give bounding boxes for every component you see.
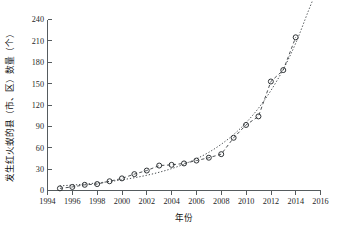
y-tick-label-120: 120 xyxy=(32,101,44,110)
x-axis-tick-labels: 1994 1996 1998 2000 2002 2004 2006 2008 … xyxy=(39,197,328,206)
data-point-marker xyxy=(82,182,87,187)
data-point-marker xyxy=(182,161,187,166)
y-tick-label-150: 150 xyxy=(32,80,44,89)
x-tick-label-2008: 2008 xyxy=(213,197,229,206)
x-tick-label-2006: 2006 xyxy=(188,197,204,206)
data-point-marker xyxy=(206,155,211,160)
data-point-marker xyxy=(293,35,298,40)
data-point-marker xyxy=(268,79,273,84)
data-point-marker xyxy=(244,122,249,127)
data-point-marker xyxy=(95,182,100,187)
y-tick-label-90: 90 xyxy=(36,122,44,131)
y-tick-label-180: 180 xyxy=(32,58,44,67)
data-point-marker xyxy=(169,162,174,167)
x-axis: 1994 1996 1998 2000 2002 2004 2006 2008 … xyxy=(39,191,328,224)
y-tick-label-30: 30 xyxy=(36,165,44,174)
x-tick-label-2004: 2004 xyxy=(164,197,180,206)
y-axis-ticks xyxy=(48,20,52,191)
data-point-marker xyxy=(194,158,199,163)
y-tick-label-210: 210 xyxy=(32,37,44,46)
data-point-marker xyxy=(219,152,224,157)
y-tick-label-0: 0 xyxy=(40,186,44,195)
x-tick-label-1994: 1994 xyxy=(39,197,55,206)
series-connector-line xyxy=(60,37,296,188)
data-point-marker xyxy=(57,186,62,191)
y-tick-label-60: 60 xyxy=(36,144,44,153)
chart-plot: 240 210 180 150 120 90 60 30 0 发生红火蚁的县（市… xyxy=(0,0,346,239)
x-tick-label-2014: 2014 xyxy=(288,197,304,206)
x-tick-label-2000: 2000 xyxy=(114,197,130,206)
data-point-marker xyxy=(132,172,137,177)
x-axis-title: 年份 xyxy=(175,212,193,223)
data-point-marker xyxy=(231,135,236,140)
y-axis: 240 210 180 150 120 90 60 30 0 发生红火蚁的县（市… xyxy=(4,15,52,195)
x-tick-label-2002: 2002 xyxy=(139,197,155,206)
x-tick-label-2016: 2016 xyxy=(312,197,328,206)
fitted-curve xyxy=(60,0,316,186)
data-point-marker xyxy=(256,114,261,119)
chart-container: 240 210 180 150 120 90 60 30 0 发生红火蚁的县（市… xyxy=(0,0,346,239)
data-point-marker xyxy=(281,68,286,73)
x-tick-label-2012: 2012 xyxy=(263,197,279,206)
data-series-layer xyxy=(57,0,315,191)
x-tick-label-2010: 2010 xyxy=(238,197,254,206)
y-axis-title: 发生红火蚁的县（市、区）数量（个） xyxy=(4,29,15,182)
y-tick-label-240: 240 xyxy=(32,15,44,24)
x-axis-ticks xyxy=(48,191,321,195)
data-point-marker xyxy=(144,168,149,173)
data-point-marker xyxy=(107,179,112,184)
x-tick-label-1998: 1998 xyxy=(89,197,105,206)
data-point-markers xyxy=(57,35,298,191)
data-point-marker xyxy=(70,184,75,189)
x-tick-label-1996: 1996 xyxy=(64,197,80,206)
y-axis-tick-labels: 240 210 180 150 120 90 60 30 0 xyxy=(32,15,44,195)
data-point-marker xyxy=(157,163,162,168)
data-point-marker xyxy=(119,176,124,181)
